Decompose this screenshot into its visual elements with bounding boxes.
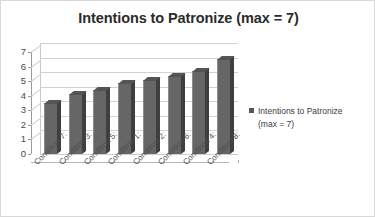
y-axis-tick: [28, 67, 31, 68]
y-axis-tick: [28, 125, 31, 126]
y-axis-tick-label: 3: [21, 106, 26, 116]
x-axis-labels-group: Condition 7:Condition 3:Condition 5:Cond…: [31, 161, 251, 217]
gridline: [40, 43, 238, 44]
chart-legend: Intentions to Patronize (max = 7): [249, 105, 369, 131]
y-axis-tick-label: 2: [21, 120, 26, 130]
y-axis-tick: [28, 52, 31, 53]
y-axis-tick-label: 7: [21, 47, 26, 57]
y-axis-tick-label: 4: [21, 91, 26, 101]
y-axis-tick-label: 1: [21, 135, 26, 145]
legend-swatch-icon: [249, 108, 254, 113]
y-axis-tick: [28, 154, 31, 155]
legend-item: Intentions to Patronize (max = 7): [249, 105, 369, 131]
y-axis-tick: [28, 110, 31, 111]
y-axis-tick-label: 0: [21, 149, 26, 159]
gridline: [40, 58, 238, 59]
chart-container: Intentions to Patronize (max = 7) 012345…: [0, 0, 375, 217]
y-axis-tick: [28, 81, 31, 82]
y-axis-tick-label: 5: [21, 76, 26, 86]
y-axis-tick-label: 6: [21, 62, 26, 72]
y-axis-tick: [28, 96, 31, 97]
chart-title: Intentions to Patronize (max = 7): [1, 10, 375, 26]
y-axis-tick: [28, 139, 31, 140]
legend-item-label: Intentions to Patronize (max = 7): [258, 105, 363, 131]
